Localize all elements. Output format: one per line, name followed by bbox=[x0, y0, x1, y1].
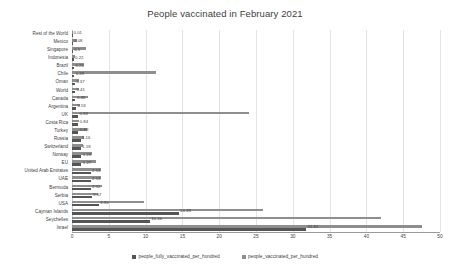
bar-value-label: 31.81 bbox=[308, 223, 319, 231]
bar-row: 0.53 bbox=[72, 103, 440, 111]
bar-people-fully-vaccinated bbox=[72, 163, 81, 166]
legend-label: people_vaccinated_per_hundred bbox=[248, 254, 318, 259]
bar-row: 1.16 bbox=[72, 135, 440, 143]
category-label: Bermuda bbox=[49, 184, 68, 192]
bar-people-fully-vaccinated bbox=[72, 155, 81, 158]
bar-row: 0.41 bbox=[72, 87, 440, 95]
bar-row: 0.22 bbox=[72, 54, 440, 62]
x-tick-label: 5 bbox=[107, 234, 110, 239]
bar-people-fully-vaccinated bbox=[72, 196, 92, 199]
x-tick-label: 20 bbox=[217, 234, 222, 239]
bar-people-fully-vaccinated bbox=[72, 123, 78, 126]
bar-people-fully-vaccinated bbox=[72, 188, 91, 191]
category-label: EU bbox=[62, 159, 68, 167]
bar-people-fully-vaccinated bbox=[72, 42, 73, 45]
category-label: Seychelles bbox=[46, 216, 68, 224]
x-tick-label: 30 bbox=[290, 234, 295, 239]
category-label: Mexico bbox=[53, 38, 68, 46]
bar-people-fully-vaccinated bbox=[72, 107, 76, 110]
bar-value-label: 0.88 bbox=[80, 126, 88, 134]
x-tick-label: 25 bbox=[253, 234, 258, 239]
bar-people-vaccinated bbox=[72, 71, 156, 74]
category-label: Norway bbox=[52, 151, 68, 159]
bar-row: 0.88 bbox=[72, 127, 440, 135]
bar-row: 31.81 bbox=[72, 224, 440, 232]
bar-row: 0.08 bbox=[72, 38, 440, 46]
bar-row: 14.48 bbox=[72, 208, 440, 216]
bar-people-fully-vaccinated bbox=[72, 115, 78, 118]
bar-people-fully-vaccinated bbox=[72, 131, 78, 134]
bar-people-fully-vaccinated bbox=[72, 147, 81, 150]
category-axis: Rest of the WorldMexicoSingaporeIndonesi… bbox=[0, 30, 70, 232]
category-label: Indonesia bbox=[48, 54, 68, 62]
bar-row: 2.67 bbox=[72, 192, 440, 200]
bar-people-fully-vaccinated bbox=[72, 58, 74, 61]
chart-legend: people_fully_vaccinated_per_hundredpeopl… bbox=[0, 254, 450, 259]
bar-value-label: 0.84 bbox=[80, 118, 88, 126]
bar-value-label: 0.01 bbox=[74, 29, 82, 37]
bar-row: 0.83 bbox=[72, 111, 440, 119]
bar-value-label: 1.26 bbox=[83, 151, 91, 159]
legend-swatch-icon bbox=[242, 255, 246, 259]
bar-value-label: 0.53 bbox=[77, 102, 85, 110]
bar-people-fully-vaccinated bbox=[72, 34, 73, 37]
x-tick-label: 45 bbox=[401, 234, 406, 239]
bar-row: 1.18 bbox=[72, 143, 440, 151]
x-tick-label: 15 bbox=[180, 234, 185, 239]
category-label: Argentina bbox=[48, 103, 68, 111]
x-tick-label: 10 bbox=[143, 234, 148, 239]
category-label: Israel bbox=[57, 224, 68, 232]
category-label: UK bbox=[62, 111, 68, 119]
bar-value-label: 3.65 bbox=[100, 199, 108, 207]
bar-value-label: 0.22 bbox=[75, 54, 83, 62]
gridline bbox=[440, 30, 441, 232]
legend-item[interactable]: people_fully_vaccinated_per_hundred bbox=[132, 254, 220, 259]
bar-row: 0.29 bbox=[72, 70, 440, 78]
bar-row: 0.46 bbox=[72, 95, 440, 103]
chart-container: People vaccinated in February 2021 Rest … bbox=[0, 0, 450, 273]
category-label: USA bbox=[59, 200, 68, 208]
bar-value-label: 1.16 bbox=[82, 134, 90, 142]
legend-label: people_fully_vaccinated_per_hundred bbox=[139, 254, 220, 259]
category-label: Chile bbox=[58, 70, 68, 78]
bar-value-label: 10.56 bbox=[151, 215, 162, 223]
bar-value-label: 1.27 bbox=[83, 159, 91, 167]
bar-value-label: 0.46 bbox=[77, 94, 85, 102]
bar-value-label: 0.1 bbox=[74, 46, 80, 54]
category-label: Cayman Islands bbox=[35, 208, 68, 216]
bar-people-fully-vaccinated bbox=[72, 50, 73, 53]
legend-item[interactable]: people_vaccinated_per_hundred bbox=[242, 254, 318, 259]
bar-people-fully-vaccinated bbox=[72, 67, 74, 70]
x-axis-line bbox=[72, 232, 440, 233]
plot-wrap: Rest of the WorldMexicoSingaporeIndonesi… bbox=[0, 30, 450, 232]
bar-people-fully-vaccinated bbox=[72, 75, 74, 78]
category-label: Canada bbox=[52, 95, 68, 103]
bar-row: 0.37 bbox=[72, 78, 440, 86]
bar-people-fully-vaccinated bbox=[72, 228, 306, 231]
x-tick-label: 40 bbox=[364, 234, 369, 239]
bar-people-fully-vaccinated bbox=[72, 212, 179, 215]
bar-value-label: 14.48 bbox=[180, 207, 191, 215]
bar-people-vaccinated bbox=[72, 112, 249, 115]
bar-value-label: 2.67 bbox=[93, 191, 101, 199]
category-label: UAE bbox=[59, 175, 68, 183]
category-label: World bbox=[56, 87, 68, 95]
category-label: Costa Rica bbox=[46, 119, 68, 127]
bar-row: 2.52 bbox=[72, 184, 440, 192]
bar-row: 1.27 bbox=[72, 159, 440, 167]
x-tick-label: 50 bbox=[437, 234, 442, 239]
bar-value-label: 2.52 bbox=[92, 183, 100, 191]
bar-people-fully-vaccinated bbox=[72, 180, 91, 183]
bar-value-label: 0.26 bbox=[75, 62, 83, 70]
bar-value-label: 2.53 bbox=[92, 167, 100, 175]
category-label: Brazil bbox=[57, 62, 69, 70]
bar-value-label: 0.41 bbox=[77, 86, 85, 94]
legend-swatch-icon bbox=[132, 255, 136, 259]
bar-people-fully-vaccinated bbox=[72, 91, 75, 94]
category-label: United Arab Emirates bbox=[25, 167, 68, 175]
bar-row: 10.56 bbox=[72, 216, 440, 224]
bar-row: 1.26 bbox=[72, 151, 440, 159]
bar-value-label: 0.29 bbox=[76, 70, 84, 78]
bar-people-fully-vaccinated bbox=[72, 83, 75, 86]
x-tick-label: 35 bbox=[327, 234, 332, 239]
